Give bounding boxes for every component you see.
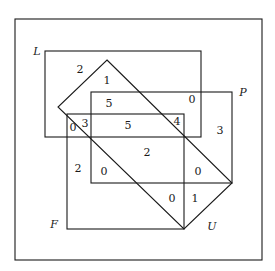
region-count: 0	[169, 192, 176, 205]
region-count: 0	[195, 165, 202, 178]
region-count: 1	[192, 192, 199, 205]
region-count: 1	[104, 74, 111, 87]
set-L-label: L	[32, 45, 40, 58]
region-count: 3	[217, 124, 224, 137]
set-U-diamond	[58, 60, 232, 229]
region-count: 0	[70, 121, 77, 134]
set-F-label: F	[49, 218, 58, 231]
region-count: 3	[82, 117, 89, 130]
region-count: 2	[144, 146, 151, 159]
region-count: 0	[189, 93, 196, 106]
region-counts: 2 1 5 0 3 0 5 4 3 2 2 0 0 0 1	[70, 63, 224, 205]
venn-diagram: L P F U 2 1 5 0 3 0 5 4 3 2 2 0 0 0 1	[0, 0, 275, 271]
region-count: 2	[77, 63, 84, 76]
region-count: 2	[75, 162, 82, 175]
region-count: 4	[174, 115, 181, 128]
region-count: 5	[106, 97, 113, 110]
set-U-label: U	[207, 220, 217, 233]
region-count: 0	[101, 165, 108, 178]
set-P-label: P	[238, 86, 247, 99]
region-count: 5	[125, 119, 132, 132]
